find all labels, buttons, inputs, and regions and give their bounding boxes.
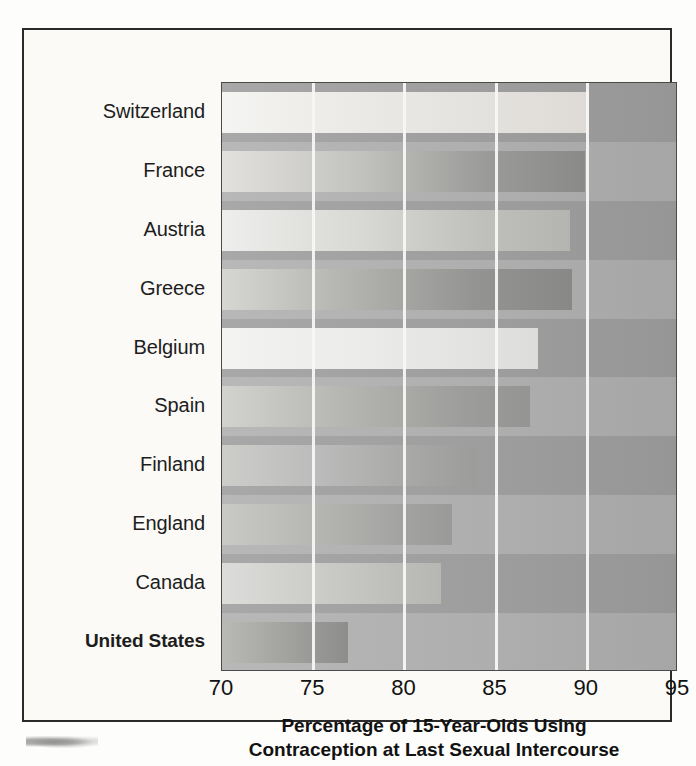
bar-row — [222, 83, 676, 142]
x-tick-label-85: 85 — [482, 675, 506, 701]
bar — [222, 210, 570, 251]
bar — [222, 386, 530, 427]
bar-row — [222, 613, 676, 671]
x-tick-label-90: 90 — [574, 675, 598, 701]
figure-frame: SwitzerlandFranceAustriaGreeceBelgiumSpa… — [22, 28, 672, 722]
figure-container: SwitzerlandFranceAustriaGreeceBelgiumSpa… — [0, 0, 696, 766]
category-label-canada: Canada — [46, 553, 214, 612]
category-label-spain: Spain — [46, 376, 214, 435]
x-tick-label-80: 80 — [391, 675, 415, 701]
gridline-80 — [403, 83, 406, 670]
category-label-belgium: Belgium — [46, 318, 214, 377]
category-label-finland: Finland — [46, 435, 214, 494]
bar-row — [222, 495, 676, 554]
x-tick-label-75: 75 — [300, 675, 324, 701]
gridline-85 — [495, 83, 498, 670]
x-axis-ticks: 707580859095 — [221, 675, 677, 703]
bar — [222, 622, 348, 663]
category-label-austria: Austria — [46, 200, 214, 259]
bar-row — [222, 436, 676, 495]
x-axis-title-line-2: Contraception at Last Sexual Intercourse — [174, 738, 694, 762]
plot-area — [221, 82, 677, 671]
bar-row — [222, 201, 676, 260]
bar — [222, 563, 441, 604]
category-label-united-states: United States — [46, 612, 214, 671]
bar-row — [222, 260, 676, 319]
bar-row — [222, 377, 676, 436]
category-axis-labels: SwitzerlandFranceAustriaGreeceBelgiumSpa… — [46, 82, 214, 671]
category-label-greece: Greece — [46, 259, 214, 318]
scan-artifact — [26, 736, 98, 748]
x-axis-title-line-1: Percentage of 15-Year-Olds Using — [281, 715, 586, 736]
bar — [222, 504, 452, 545]
bar — [222, 269, 572, 310]
bar — [222, 445, 476, 486]
bar-row — [222, 319, 676, 378]
bar-row — [222, 554, 676, 613]
bar-rows — [222, 83, 676, 670]
category-label-switzerland: Switzerland — [46, 82, 214, 141]
bar-row — [222, 142, 676, 201]
x-tick-label-95: 95 — [665, 675, 689, 701]
gridline-90 — [586, 83, 589, 670]
category-label-france: France — [46, 141, 214, 200]
gridline-75 — [312, 83, 315, 670]
x-tick-label-70: 70 — [209, 675, 233, 701]
x-axis-title: Percentage of 15-Year-Olds Using Contrac… — [174, 714, 694, 762]
category-label-england: England — [46, 494, 214, 553]
bar — [222, 328, 538, 369]
